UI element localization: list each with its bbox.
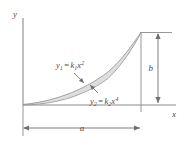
y2-var-sub: 2 [94, 101, 97, 107]
dimension-label-a: a [80, 123, 85, 133]
leader-line-y1 [74, 73, 84, 83]
y1-exponent: 2 [81, 60, 84, 66]
equation-label-y1: y1=k1x2 [55, 60, 84, 71]
shaded-area-between-curves [23, 33, 141, 105]
area-between-curves-diagram: b a y x y1=k1x2 y2=k2x4 [0, 0, 185, 146]
y2-exponent: 4 [115, 96, 118, 102]
y1-var-sub: 1 [60, 65, 63, 71]
x-axis-label: x [171, 109, 176, 119]
y1-equals: = [64, 60, 69, 70]
curve-y2 [23, 33, 141, 106]
y2-equals: = [98, 96, 103, 106]
dimension-label-b: b [149, 63, 154, 73]
y-axis-label: y [12, 9, 17, 19]
figure-container: b a y x y1=k1x2 y2=k2x4 [0, 0, 185, 146]
